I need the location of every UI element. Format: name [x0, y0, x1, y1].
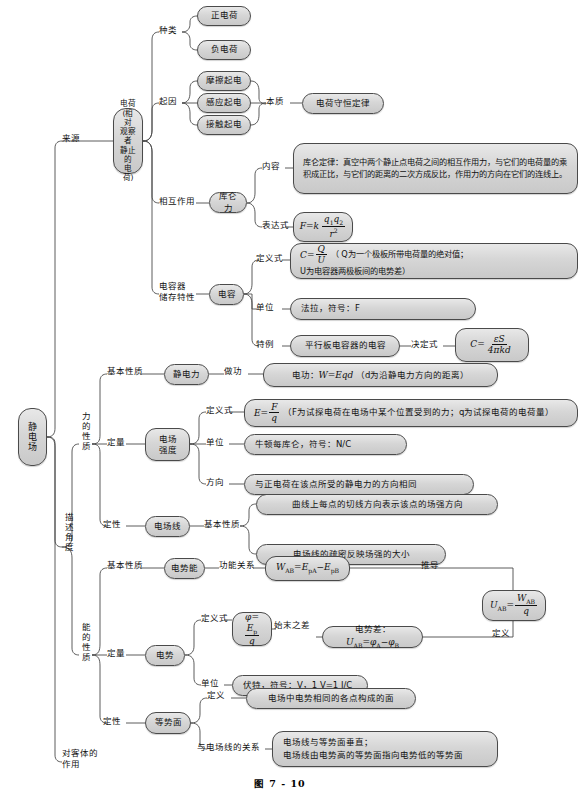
node-field-strength-direction-text: 与正电荷在该点所受的静电力的方向相同: [255, 479, 417, 490]
node-charge-line-1: 电荷: [120, 99, 136, 108]
node-coulomb-law-content[interactable]: 库仑定律：真空中两个静止点电荷之间的相互作用力，与它们的电荷量的乘积成正比，与它…: [293, 143, 578, 194]
formula-u-ab: UAB=WABq: [490, 594, 538, 617]
node-charge-line-3: 观察者: [119, 127, 137, 146]
label-capacitor-storage: 电容器 储存特性: [159, 281, 203, 303]
potential-difference-prefix: 电势差：: [355, 624, 391, 634]
node-electric-work-text: 电功：W=Eqd （d为沿静电力方向的距离）: [292, 369, 470, 381]
node-potential-difference-text: 电势差：UAB=φA−φB: [328, 624, 417, 650]
formula-coulomb: F=k q1q2r2: [300, 214, 346, 239]
node-field-line-label: 电场线: [154, 521, 181, 532]
label-capacitance-determining: 决定式: [411, 339, 438, 350]
label-energy-property: 能的性质: [79, 623, 90, 685]
node-equipotential-definition[interactable]: 电场中电势相同的各点构成的面: [246, 688, 416, 709]
node-field-strength-definition-formula[interactable]: E=Fq （F为试探电荷在电场中某个位置受到的力；q为试探电荷的电荷量）: [244, 399, 578, 427]
label-field-strength-direction: 方向: [206, 477, 224, 488]
electric-work-tail: （d为沿静电力方向的距离）: [356, 370, 469, 380]
node-charge-conservation-law[interactable]: 电荷守恒定律: [302, 93, 384, 114]
node-induction-electrification-label: 感应起电: [206, 97, 242, 108]
node-capacitance-label: 电容: [218, 289, 236, 300]
electric-work-prefix: 电功：: [292, 370, 319, 380]
node-field-line-property-1-text: 曲线上每点的切线方向表示该点的场强方向: [292, 499, 463, 510]
label-potential-definition: 定义式: [201, 613, 228, 624]
branch-label-effect-on-object: 对客体的作用: [62, 748, 102, 770]
node-friction-electrification-label: 摩擦起电: [206, 75, 242, 86]
node-equipotential-relation[interactable]: 电场线与等势面垂直； 电场线由电势高的等势面指向电势低的等势面: [272, 731, 498, 767]
label-field-strength-definition: 定义式: [206, 405, 233, 416]
equipotential-relation-line-2: 电场线由电势高的等势面指向电势低的等势面: [283, 750, 463, 760]
node-field-strength-direction[interactable]: 与正电荷在该点所受的静电力的方向相同: [244, 474, 474, 495]
node-coulomb-force[interactable]: 库仑力: [209, 192, 247, 213]
node-equipotential-surface[interactable]: 等势面: [145, 712, 191, 734]
label-energy-quantitative: 定量: [107, 648, 125, 659]
node-potential-definition-formula[interactable]: φ=Epq: [232, 612, 272, 646]
root-node-label: 静电场: [26, 422, 38, 452]
node-equipotential-relation-text: 电场线与等势面垂直； 电场线由电势高的等势面指向电势低的等势面: [283, 736, 463, 762]
node-potential-energy[interactable]: 电势能: [164, 558, 205, 579]
label-charge-essence: 本质: [266, 96, 284, 107]
field-strength-definition-tail: （F为试探电荷在电场中某个位置受到的力；q为试探电荷的电荷量）: [283, 408, 554, 418]
root-node-electrostatic-field[interactable]: 静电场: [18, 408, 47, 466]
node-negative-charge-label: 负电荷: [211, 44, 238, 55]
label-energy-basic-property: 基本性质: [107, 560, 143, 571]
node-charge-conservation-law-label: 电荷守恒定律: [316, 98, 370, 109]
branch-label-describe-angle: 描述角度: [62, 513, 73, 573]
label-capacitance-unit: 单位: [256, 302, 274, 313]
node-capacitance-determining-formula[interactable]: C=εS4πkd: [455, 328, 529, 362]
node-potential[interactable]: 电势: [145, 645, 185, 666]
node-contact-electrification-label: 接触起电: [206, 119, 242, 130]
node-field-line-property-1[interactable]: 曲线上每点的切线方向表示该点的场强方向: [256, 494, 498, 515]
node-electrostatic-force[interactable]: 静电力: [164, 364, 209, 385]
node-field-strength[interactable]: 电场 强度: [145, 428, 190, 461]
node-capacitance-definition-formula[interactable]: C=QU （ Q为一个极板所带电荷量的绝对值； U为电容器两极板间的电势差）: [290, 243, 578, 279]
node-field-strength-line-1: 电场: [159, 434, 177, 444]
node-capacitance-unit[interactable]: 法拉，符号：F: [290, 298, 476, 320]
node-friction-electrification[interactable]: 摩擦起电: [197, 71, 251, 91]
label-field-strength-unit: 单位: [206, 437, 224, 448]
label-force-basic-property: 基本性质: [107, 366, 143, 377]
mindmap-canvas: 静电场 来源 描述角度 对客体的作用 电荷 (相对 观察者 静止的 电荷) 种类…: [0, 0, 578, 811]
label-charge-cause: 起因: [159, 96, 177, 107]
node-potential-difference-derived-formula[interactable]: UAB=WABq: [482, 590, 546, 621]
node-coulomb-expression-formula[interactable]: F=k q1q2r2: [293, 212, 353, 242]
equipotential-relation-line-1: 电场线与等势面垂直；: [283, 737, 373, 747]
label-charge-interaction: 相互作用: [159, 196, 195, 207]
node-electrostatic-force-label: 静电力: [173, 369, 200, 380]
node-capacitance[interactable]: 电容: [209, 284, 244, 305]
label-force-qualitative: 定性: [103, 519, 121, 530]
node-charge-line-5: 电荷): [119, 164, 137, 183]
node-induction-electrification[interactable]: 感应起电: [197, 93, 251, 113]
node-electric-work-formula[interactable]: 电功：W=Eqd （d为沿静电力方向的距离）: [263, 363, 498, 387]
node-potential-energy-label: 电势能: [171, 563, 198, 574]
capacitance-definition-tail-2: U为电容器两极板间的电势差）: [300, 266, 410, 276]
label-electrostatic-force-work: 做功: [224, 366, 242, 377]
node-charge[interactable]: 电荷 (相对 观察者 静止的 电荷): [113, 108, 143, 174]
node-parallel-plate-capacitance-label: 平行板电容器的电容: [305, 340, 386, 351]
node-field-line[interactable]: 电场线: [145, 516, 190, 537]
formula-potential: φ=Epq: [238, 611, 266, 646]
figure-caption: 图 7 - 10: [254, 776, 306, 790]
label-work-energy-relation: 功能关系: [219, 560, 255, 571]
label-coulomb-expression: 表达式: [262, 220, 289, 231]
branch-label-source: 来源: [62, 133, 80, 144]
label-potential-unit: 单位: [201, 678, 219, 689]
label-start-end-difference: 始末之差: [274, 620, 310, 631]
node-coulomb-law-content-text: 库仑定律：真空中两个静止点电荷之间的相互作用力，与它们的电荷量的乘积成正比，与它…: [303, 157, 568, 181]
node-parallel-plate-capacitance[interactable]: 平行板电容器的电容: [290, 335, 400, 357]
label-equipotential-definition: 定义: [207, 690, 225, 701]
node-work-energy-formula[interactable]: WAB=EpA−EpB: [265, 556, 350, 581]
node-negative-charge[interactable]: 负电荷: [197, 40, 251, 60]
label-force-property: 力的性质: [79, 412, 90, 474]
node-positive-charge[interactable]: 正电荷: [197, 6, 251, 26]
node-contact-electrification[interactable]: 接触起电: [197, 115, 251, 135]
node-coulomb-force-label: 库仑力: [215, 191, 241, 214]
node-potential-label: 电势: [156, 650, 174, 661]
label-equipotential-relation: 与电场线的关系: [197, 742, 260, 753]
label-field-line-basic-property: 基本性质: [204, 519, 240, 530]
formula-parallel-plate: C=εS4πkd: [470, 334, 513, 356]
node-field-strength-unit[interactable]: 牛顿每库仑，符号：N/C: [244, 434, 407, 455]
label-coulomb-content: 内容: [262, 161, 280, 172]
formula-field-strength: E=Fq （F为试探电荷在电场中某个位置受到的力；q为试探电荷的电荷量）: [254, 402, 554, 424]
node-potential-difference[interactable]: 电势差：UAB=φA−φB: [322, 626, 423, 648]
label-capacitance-special: 特例: [256, 339, 274, 350]
node-field-strength-unit-text: 牛顿每库仑，符号：N/C: [255, 439, 351, 450]
